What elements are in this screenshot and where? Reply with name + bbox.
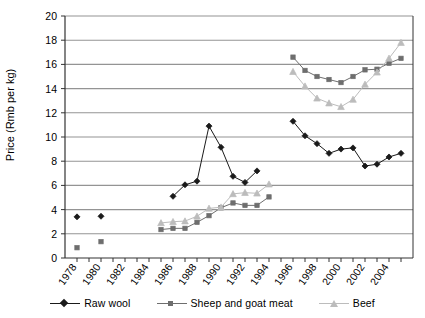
data-point-marker xyxy=(303,68,307,72)
y-tick-label: 8 xyxy=(51,155,57,167)
legend-swatch xyxy=(319,298,349,309)
data-point-marker xyxy=(230,173,236,179)
data-point-marker xyxy=(183,226,187,230)
data-point-marker xyxy=(171,226,175,230)
data-point-marker xyxy=(231,201,235,205)
series-line xyxy=(161,197,269,230)
legend-swatch xyxy=(50,298,80,309)
series-sheep-and-goat-meat xyxy=(75,55,403,250)
data-point-marker xyxy=(398,150,404,156)
data-point-marker xyxy=(351,74,355,78)
plot-area: 02468101214161820 1978198019821984198619… xyxy=(0,0,425,285)
legend-marker-triangle-icon xyxy=(330,300,338,307)
data-point-marker xyxy=(194,213,201,219)
data-point-marker xyxy=(207,213,211,217)
y-axis-title: Price (Rmb per kg) xyxy=(4,69,16,161)
y-tick-label: 6 xyxy=(51,179,57,191)
data-point-marker xyxy=(290,68,297,74)
x-tick-label: 1986 xyxy=(151,261,174,285)
data-point-marker xyxy=(374,161,380,167)
data-point-marker xyxy=(218,144,224,150)
y-tick-label: 20 xyxy=(45,10,57,22)
x-tick-label: 2002 xyxy=(343,261,366,285)
data-point-marker xyxy=(362,163,368,169)
gridlines xyxy=(65,16,413,234)
x-tick-label: 1998 xyxy=(295,261,318,285)
legend-marker-square-icon xyxy=(168,301,173,306)
y-tick-label: 4 xyxy=(51,204,57,216)
data-point-marker xyxy=(266,181,273,187)
y-tick-label: 12 xyxy=(45,107,57,119)
data-point-marker xyxy=(255,203,259,207)
data-point-marker xyxy=(326,100,333,106)
data-point-marker xyxy=(399,56,403,60)
data-point-marker xyxy=(338,146,344,152)
legend-item[interactable]: Raw wool xyxy=(50,297,130,309)
x-tick-label: 1994 xyxy=(247,261,270,285)
y-tick-label: 2 xyxy=(51,228,57,240)
data-point-marker xyxy=(159,227,163,231)
legend-label: Sheep and goat meat xyxy=(191,297,293,309)
series-beef xyxy=(158,39,405,225)
data-point-marker xyxy=(243,203,247,207)
legend-label: Beef xyxy=(353,297,375,309)
data-point-marker xyxy=(291,55,295,59)
x-tick-label: 2000 xyxy=(319,261,342,285)
y-axis-title-text: Price (Rmb per kg) xyxy=(4,69,16,161)
data-point-marker xyxy=(74,214,80,220)
legend-swatch xyxy=(157,298,187,309)
data-point-marker xyxy=(195,220,199,224)
series-line xyxy=(293,121,401,166)
data-point-marker xyxy=(327,77,331,81)
x-tick-label: 1996 xyxy=(271,261,294,285)
y-tick-label: 16 xyxy=(45,58,57,70)
data-point-marker xyxy=(387,61,391,65)
chart-legend: Raw woolSheep and goat meatBeef xyxy=(0,288,425,318)
legend-marker-diamond-icon xyxy=(60,299,68,307)
x-axis: 1978198019821984198619881990199219941996… xyxy=(55,258,413,285)
data-point-marker xyxy=(206,123,212,129)
x-tick-label: 1978 xyxy=(55,261,78,285)
data-point-marker xyxy=(350,145,356,151)
data-point-marker xyxy=(363,68,367,72)
x-tick-label: 1984 xyxy=(127,261,150,285)
x-tick-label: 1988 xyxy=(175,261,198,285)
x-tick-label: 2004 xyxy=(367,261,390,285)
y-tick-label: 18 xyxy=(45,34,57,46)
data-point-marker xyxy=(315,74,319,78)
data-point-marker xyxy=(194,178,200,184)
data-point-marker xyxy=(267,195,271,199)
legend-item[interactable]: Sheep and goat meat xyxy=(157,297,293,309)
series-line xyxy=(293,43,401,107)
x-tick-label: 1992 xyxy=(223,261,246,285)
legend-item[interactable]: Beef xyxy=(319,297,375,309)
x-tick-label: 1990 xyxy=(199,261,222,285)
y-tick-label: 10 xyxy=(45,131,57,143)
series-line xyxy=(293,57,401,82)
series-line xyxy=(161,184,269,223)
chart-container: 02468101214161820 1978198019821984198619… xyxy=(0,0,425,318)
data-point-marker xyxy=(99,239,103,243)
y-tick-label: 14 xyxy=(45,83,57,95)
y-tick-label: 0 xyxy=(51,252,57,264)
x-tick-label: 1982 xyxy=(103,261,126,285)
data-series-layer xyxy=(74,39,404,250)
legend-label: Raw wool xyxy=(84,297,130,309)
data-point-marker xyxy=(98,213,104,219)
x-tick-label: 1980 xyxy=(79,261,102,285)
data-point-marker xyxy=(339,80,343,84)
data-point-marker xyxy=(386,154,392,160)
line-chart-svg: 02468101214161820 1978198019821984198619… xyxy=(0,0,425,285)
data-point-marker xyxy=(75,246,79,250)
